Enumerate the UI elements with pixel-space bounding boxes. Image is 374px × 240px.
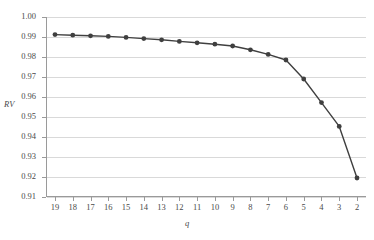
x-tick-mark bbox=[339, 197, 340, 201]
x-tick-mark bbox=[91, 197, 92, 201]
x-tick-mark bbox=[162, 197, 163, 201]
data-point-marker bbox=[301, 77, 306, 82]
x-tick-mark bbox=[268, 197, 269, 201]
data-point-marker bbox=[53, 32, 58, 37]
x-tick-mark bbox=[321, 197, 322, 201]
data-point-marker bbox=[284, 58, 289, 63]
series-path bbox=[55, 35, 357, 178]
data-point-marker bbox=[212, 42, 217, 47]
data-point-marker bbox=[141, 36, 146, 41]
x-tick-mark bbox=[55, 197, 56, 201]
data-point-marker bbox=[248, 47, 253, 52]
data-point-marker bbox=[124, 35, 129, 40]
data-point-marker bbox=[266, 52, 271, 57]
x-tick-mark bbox=[233, 197, 234, 201]
x-tick-mark bbox=[179, 197, 180, 201]
x-axis-ticks: 1918171615141312111098765432 bbox=[46, 197, 366, 217]
x-tick-mark bbox=[250, 197, 251, 201]
data-point-marker bbox=[355, 176, 360, 181]
x-tick-mark bbox=[126, 197, 127, 201]
data-point-marker bbox=[177, 39, 182, 44]
data-point-marker bbox=[230, 44, 235, 49]
data-point-marker bbox=[88, 33, 93, 38]
data-point-marker bbox=[195, 40, 200, 45]
x-tick-mark bbox=[197, 197, 198, 201]
data-point-marker bbox=[106, 34, 111, 39]
x-tick-mark bbox=[108, 197, 109, 201]
data-point-marker bbox=[337, 124, 342, 129]
x-tick-mark bbox=[357, 197, 358, 201]
data-point-marker bbox=[159, 37, 164, 42]
x-tick-label: 2 bbox=[347, 202, 367, 212]
data-point-marker bbox=[319, 100, 324, 105]
data-point-marker bbox=[70, 33, 75, 38]
x-tick-mark bbox=[286, 197, 287, 201]
x-tick-mark bbox=[144, 197, 145, 201]
x-tick-mark bbox=[215, 197, 216, 201]
chart-container: RV 1.000.990.980.970.960.950.940.930.920… bbox=[0, 0, 374, 240]
x-tick-mark bbox=[304, 197, 305, 201]
x-axis-title: q bbox=[0, 218, 374, 228]
x-tick-mark bbox=[73, 197, 74, 201]
